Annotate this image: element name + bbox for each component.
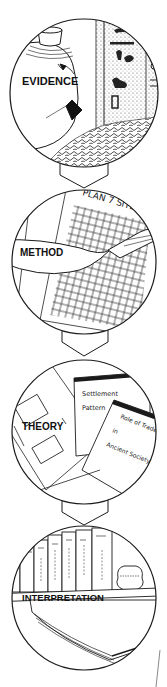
method-label: METHOD [20, 247, 63, 258]
stage-theory: Settlement Pattern Role of Trade in Anci… [0, 360, 167, 510]
diagram-canvas: EVIDENCE PLAN 7 SITE METHOD [0, 0, 167, 687]
book-1-title-line-2: Pattern [82, 404, 105, 412]
diagram: EVIDENCE PLAN 7 SITE METHOD [0, 0, 167, 687]
evidence-label: EVIDENCE [22, 75, 78, 87]
book-1-title-line-1: Settlement [82, 390, 118, 398]
theory-label: THEORY [22, 421, 64, 432]
stage-evidence: EVIDENCE [0, 10, 167, 180]
page-edge-mark [156, 650, 160, 687]
stage-interpretation: INTERPRETATION [0, 526, 167, 670]
stage-method: PLAN 7 SITE METHOD [0, 180, 167, 340]
method-illustration: PLAN 7 SITE [0, 180, 167, 340]
interpretation-label: INTERPRETATION [22, 592, 104, 603]
